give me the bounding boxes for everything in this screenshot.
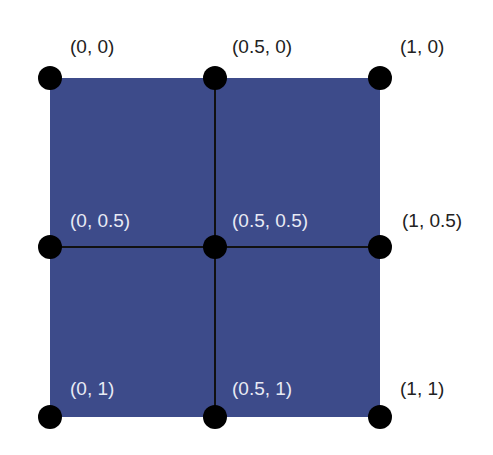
point-label: (0, 1)	[70, 378, 114, 400]
vertex-dot	[203, 66, 227, 90]
point-label: (0, 0)	[70, 36, 114, 58]
point-label: (1, 0)	[400, 36, 444, 58]
point-label: (0.5, 0)	[232, 36, 292, 58]
vertex-dot	[38, 235, 62, 259]
vertex-dot	[368, 405, 392, 429]
vertex-dot	[203, 235, 227, 259]
vertex-dot	[368, 66, 392, 90]
vertex-dot	[203, 405, 227, 429]
point-label: (1, 0.5)	[402, 210, 462, 232]
point-label: (0.5, 1)	[232, 378, 292, 400]
vertex-dot	[38, 66, 62, 90]
point-label: (0.5, 0.5)	[232, 210, 308, 232]
vertex-dot	[368, 235, 392, 259]
point-label: (1, 1)	[400, 378, 444, 400]
vertex-dot	[38, 405, 62, 429]
point-label: (0, 0.5)	[70, 210, 130, 232]
